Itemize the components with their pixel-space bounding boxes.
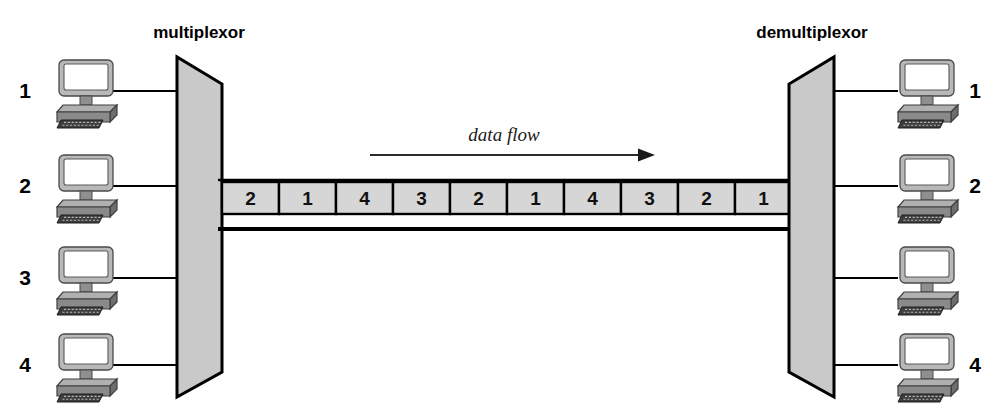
stream-cell-label: 4 — [359, 188, 370, 209]
terminal-left-1 — [57, 60, 117, 128]
right-port-label-1: 1 — [969, 79, 981, 102]
stream-cell: 3 — [393, 182, 450, 214]
stream-cell-label: 3 — [416, 188, 427, 209]
stream-cell-label: 1 — [758, 188, 769, 209]
tdm-multiplexing-diagram: 1 2 3 4 multiplexor 2 1 4 — [0, 0, 1003, 418]
stream-cell-label: 2 — [473, 188, 484, 209]
terminal-left-4 — [57, 334, 117, 402]
stream-cell: 2 — [450, 182, 507, 214]
stream-cell: 1 — [735, 182, 792, 214]
stream-cell-label: 4 — [587, 188, 598, 209]
right-connection-lines — [833, 91, 898, 365]
stream-cell-label: 2 — [245, 188, 256, 209]
stream-cell: 1 — [279, 182, 336, 214]
stream-cell: 2 — [222, 182, 279, 214]
demultiplexor-shape — [789, 57, 834, 397]
terminal-left-3 — [57, 247, 117, 315]
terminal-right-2 — [898, 155, 958, 223]
stream-cell: 2 — [678, 182, 735, 214]
left-port-label-1: 1 — [19, 79, 31, 102]
stream-cells: 2 1 4 3 2 1 4 — [222, 182, 792, 214]
left-port-label-4: 4 — [19, 353, 31, 376]
data-flow-arrow — [370, 149, 655, 162]
data-flow-label: data flow — [468, 124, 540, 145]
terminal-left-2 — [57, 155, 117, 223]
terminal-right-4 — [898, 334, 958, 402]
left-port-label-3: 3 — [19, 266, 31, 289]
right-port-label-4: 4 — [969, 353, 981, 376]
right-port-label-2: 2 — [969, 174, 981, 197]
stream-cell: 4 — [564, 182, 621, 214]
multiplexor-title: multiplexor — [153, 23, 245, 42]
left-port-label-2: 2 — [19, 174, 31, 197]
stream-cell-label: 1 — [530, 188, 541, 209]
stream-cell: 4 — [336, 182, 393, 214]
left-connection-lines — [113, 91, 178, 365]
stream-cell-label: 1 — [302, 188, 313, 209]
terminal-right-1 — [898, 60, 958, 128]
stream-cell-label: 2 — [701, 188, 712, 209]
stream-cell: 3 — [621, 182, 678, 214]
stream-cell-label: 3 — [644, 188, 655, 209]
terminal-right-3 — [898, 247, 958, 315]
stream-cell: 1 — [507, 182, 564, 214]
demultiplexor-title: demultiplexor — [756, 23, 868, 42]
multiplexor-shape — [177, 57, 222, 397]
